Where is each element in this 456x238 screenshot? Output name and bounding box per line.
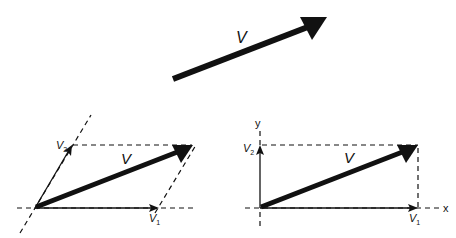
left-oblique-diagram: V V2 V1 [17,115,197,233]
right-v2-label: V2 [243,142,254,156]
left-vector-V-shaft [36,151,180,207]
left-v1-label: V1 [149,212,160,226]
right-vector-V-label: V [344,149,356,166]
top-vector-diagram: V [173,17,327,79]
right-x-axis-label: x [443,202,449,214]
right-orthogonal-diagram: V V2 V1 y x [243,117,449,230]
right-y-axis-label: y [255,117,261,129]
right-vector-V-shaft [261,151,405,207]
vector-diagrams: V V V2 V1 [0,0,456,238]
top-vector-label: V [236,29,248,46]
right-v1-label: V1 [409,212,420,226]
left-vector-V-label: V [121,150,133,167]
left-v2-label: V2 [56,139,67,153]
